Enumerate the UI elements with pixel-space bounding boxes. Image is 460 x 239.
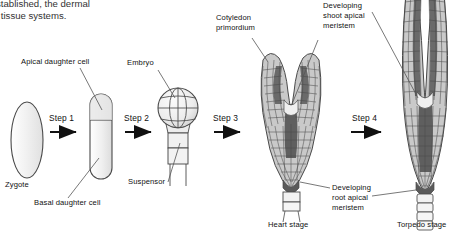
leader-basal-daughter-cell [68,158,99,198]
zygote-cell [11,102,43,178]
label-zygote: Zygote [5,181,29,190]
label-cotyledon-primordium-line1: Cotyledon [216,14,251,23]
label-basal-daughter-cell: Basal daughter cell [34,199,101,208]
step-1-label: Step 1 [49,113,74,123]
heart-stage-embryo [261,53,321,222]
globular-embryo [158,88,198,133]
label-shoot-meristem-line2: shoot apical [323,12,365,21]
step-3-label: Step 3 [213,113,238,123]
label-apical-daughter-cell: Apical daughter cell [21,58,89,67]
two-cell-embryo [90,94,112,179]
label-embryo: Embryo [127,59,154,68]
label-shoot-meristem-line3: meristem [323,22,355,31]
leader-cotyledon-primordium [252,38,268,62]
label-root-meristem-line2: root apical [332,194,368,203]
label-heart-stage: Heart stage [268,221,308,230]
label-root-meristem-line3: meristem [332,204,364,213]
embryo-development-figure: stablished, the dermal l tissue systems. [0,0,460,239]
label-shoot-meristem-line1: Developing [323,2,362,11]
label-torpedo-stage: Torpedo stage [397,221,446,230]
label-cotyledon-primordium-line2: primordium [216,24,255,33]
label-suspensor: Suspensor [128,178,165,187]
step-4-label: Step 4 [352,113,377,123]
torpedo-stage-embryo [402,0,448,230]
label-root-meristem-line1: Developing [332,184,371,193]
suspensor [168,133,188,186]
step-2-label: Step 2 [124,113,149,123]
leader-root-meristem-heart [300,182,330,188]
leader-root-meristem-torpedo [372,190,416,196]
